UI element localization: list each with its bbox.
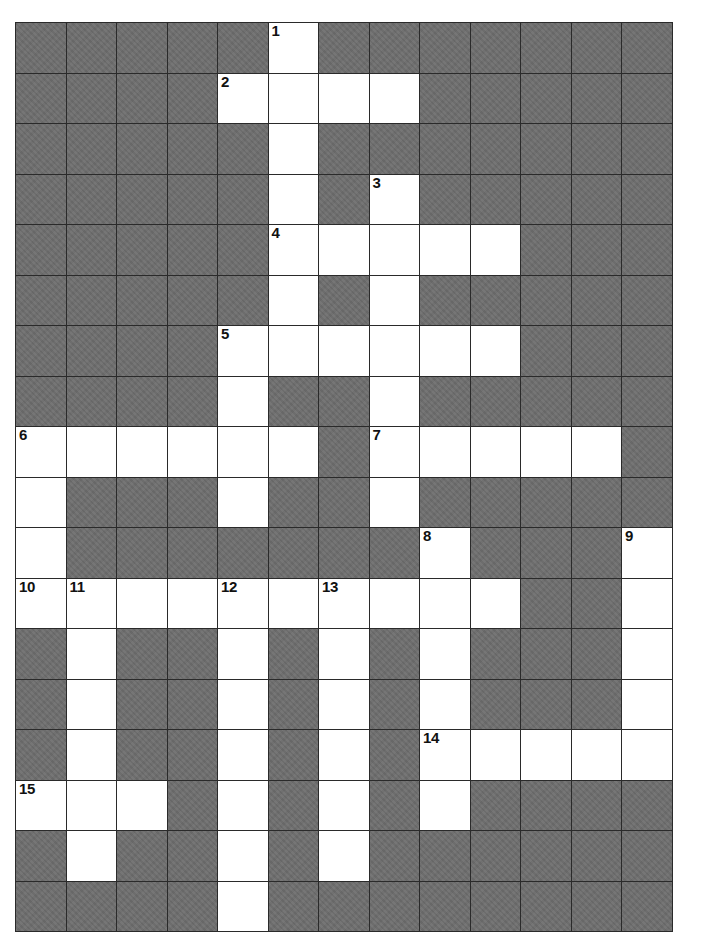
crossword-cell-open[interactable]: 8 — [420, 528, 471, 579]
crossword-cell-open[interactable] — [269, 427, 320, 478]
crossword-cell-open[interactable] — [622, 579, 673, 630]
crossword-cell-open[interactable] — [420, 629, 471, 680]
clue-number: 4 — [272, 225, 280, 241]
crossword-cell-open[interactable] — [319, 730, 370, 781]
crossword-cell-open[interactable]: 13 — [319, 579, 370, 630]
crossword-cell-open[interactable] — [370, 579, 421, 630]
crossword-cell-open[interactable] — [420, 781, 471, 832]
crossword-cell-open[interactable] — [168, 579, 219, 630]
crossword-cell-open[interactable]: 7 — [370, 427, 421, 478]
crossword-cell-open[interactable] — [370, 326, 421, 377]
crossword-cell-open[interactable]: 2 — [218, 74, 269, 125]
crossword-cell-open[interactable] — [117, 781, 168, 832]
crossword-cell-open[interactable] — [218, 781, 269, 832]
crossword-cell-block — [521, 225, 572, 276]
crossword-cell-block — [521, 680, 572, 731]
crossword-cell-open[interactable] — [471, 225, 522, 276]
crossword-cell-open[interactable]: 9 — [622, 528, 673, 579]
crossword-cell-open[interactable] — [420, 427, 471, 478]
crossword-cell-open[interactable] — [168, 427, 219, 478]
crossword-cell-open[interactable]: 10 — [16, 579, 67, 630]
crossword-cell-open[interactable] — [218, 629, 269, 680]
crossword-cell-open[interactable] — [370, 225, 421, 276]
crossword-cell-open[interactable] — [622, 730, 673, 781]
crossword-cell-open[interactable]: 11 — [67, 579, 118, 630]
crossword-cell-block — [16, 23, 67, 74]
crossword-cell-open[interactable] — [16, 528, 67, 579]
crossword-cell-open[interactable] — [218, 680, 269, 731]
crossword-cell-open[interactable] — [218, 831, 269, 882]
crossword-cell-open[interactable] — [319, 680, 370, 731]
crossword-cell-open[interactable] — [420, 579, 471, 630]
crossword-cell-block — [521, 831, 572, 882]
crossword-cell-open[interactable] — [269, 74, 320, 125]
crossword-cell-open[interactable]: 4 — [269, 225, 320, 276]
crossword-cell-open[interactable] — [370, 478, 421, 529]
crossword-cell-open[interactable] — [471, 427, 522, 478]
crossword-cell-open[interactable] — [67, 781, 118, 832]
crossword-cell-open[interactable] — [521, 730, 572, 781]
crossword-cell-block — [572, 124, 623, 175]
crossword-cell-open[interactable]: 12 — [218, 579, 269, 630]
crossword-cell-open[interactable] — [370, 74, 421, 125]
crossword-cell-open[interactable] — [67, 730, 118, 781]
crossword-cell-open[interactable] — [67, 680, 118, 731]
crossword-cell-open[interactable] — [420, 326, 471, 377]
crossword-cell-open[interactable] — [269, 175, 320, 226]
crossword-cell-open[interactable] — [218, 478, 269, 529]
crossword-cell-block — [16, 831, 67, 882]
crossword-cell-open[interactable] — [319, 326, 370, 377]
crossword-cell-block — [622, 175, 673, 226]
crossword-cell-open[interactable] — [622, 680, 673, 731]
crossword-cell-open[interactable] — [218, 377, 269, 428]
crossword-cell-open[interactable] — [420, 680, 471, 731]
crossword-cell-open[interactable] — [420, 225, 471, 276]
crossword-cell-open[interactable] — [370, 276, 421, 327]
crossword-cell-open[interactable] — [521, 427, 572, 478]
crossword-cell-block — [269, 629, 320, 680]
crossword-cell-open[interactable] — [67, 629, 118, 680]
crossword-cell-block — [319, 528, 370, 579]
crossword-cell-block — [67, 225, 118, 276]
crossword-grid[interactable]: 123456789101112131415 — [15, 22, 673, 932]
crossword-cell-open[interactable]: 3 — [370, 175, 421, 226]
crossword-cell-open[interactable] — [319, 831, 370, 882]
crossword-cell-open[interactable]: 15 — [16, 781, 67, 832]
crossword-cell-open[interactable] — [67, 831, 118, 882]
crossword-cell-open[interactable] — [117, 579, 168, 630]
crossword-cell-open[interactable]: 14 — [420, 730, 471, 781]
crossword-cell-open[interactable] — [218, 730, 269, 781]
crossword-cell-open[interactable] — [218, 882, 269, 932]
crossword-cell-open[interactable] — [269, 579, 320, 630]
crossword-cell-block — [370, 781, 421, 832]
crossword-cell-open[interactable] — [16, 478, 67, 529]
crossword-cell-open[interactable] — [471, 579, 522, 630]
crossword-cell-open[interactable] — [471, 326, 522, 377]
crossword-cell-block — [117, 680, 168, 731]
crossword-cell-open[interactable]: 5 — [218, 326, 269, 377]
crossword-cell-open[interactable] — [269, 326, 320, 377]
crossword-cell-open[interactable] — [319, 781, 370, 832]
crossword-cell-open[interactable]: 1 — [269, 23, 320, 74]
crossword-cell-open[interactable] — [572, 730, 623, 781]
clue-number: 13 — [322, 579, 338, 595]
crossword-cell-block — [572, 579, 623, 630]
crossword-cell-block — [572, 175, 623, 226]
crossword-cell-block — [319, 124, 370, 175]
crossword-cell-open[interactable] — [218, 427, 269, 478]
crossword-cell-open[interactable] — [269, 276, 320, 327]
crossword-cell-open[interactable] — [572, 427, 623, 478]
crossword-cell-open[interactable] — [67, 427, 118, 478]
crossword-cell-open[interactable] — [319, 225, 370, 276]
crossword-cell-open[interactable] — [319, 629, 370, 680]
crossword-cell-block — [16, 730, 67, 781]
crossword-cell-open[interactable] — [622, 629, 673, 680]
crossword-cell-open[interactable] — [471, 730, 522, 781]
crossword-cell-open[interactable] — [370, 377, 421, 428]
crossword-cell-block — [218, 276, 269, 327]
crossword-cell-open[interactable] — [319, 74, 370, 125]
crossword-cell-open[interactable] — [269, 124, 320, 175]
crossword-cell-open[interactable] — [117, 427, 168, 478]
crossword-cell-open[interactable]: 6 — [16, 427, 67, 478]
crossword-cell-block — [117, 326, 168, 377]
